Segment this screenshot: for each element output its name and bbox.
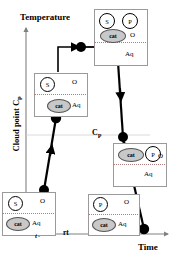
substrate-circle-icon: S (99, 13, 115, 29)
catalyst-ellipse-icon: cat (92, 218, 116, 232)
substrate-circle-icon: S (40, 77, 55, 92)
node-cloud-down (118, 132, 128, 142)
y-axis-top-label: Temperature (20, 12, 70, 22)
panel-mid-right-aqueous-label: Aq (144, 170, 153, 178)
panel-top-right-divider (94, 42, 146, 43)
x-axis-region-label: rt (63, 228, 69, 237)
panel-top-right-aqueous-label: Aq (125, 50, 134, 58)
substrate-circle-icon: S (8, 196, 23, 211)
node-top-left (76, 42, 86, 52)
y-axis-side-label-text: Cloud point C (11, 100, 21, 152)
panel-mid-left-organic-label: O (72, 78, 77, 86)
y-axis-side-label-subscript: P (17, 96, 23, 100)
catalyst-ellipse-icon: cat (100, 29, 126, 43)
panel-mid-right-organic-label: O (158, 152, 163, 160)
catalyst-ellipse-icon: cat (6, 217, 30, 231)
panel-mid-left-divider (34, 94, 86, 95)
panel-mid-left-aqueous-label: Aq (72, 101, 81, 109)
panel-bottom-mid-aqueous-label: Aq (118, 220, 127, 228)
panel-bottom-left-divider (2, 213, 54, 214)
panel-top-right-organic-label: O (130, 31, 135, 39)
cloud-point-label-subscript: P (98, 133, 102, 139)
panel-bottom-left-aqueous-label: Aq (32, 219, 41, 227)
figure-canvas: S O cat Aq S O cat Aq S P cat O Aq cat P… (0, 0, 180, 258)
panel-mid-right-divider (113, 164, 165, 165)
cloud-point-line-label: CP (92, 128, 101, 139)
trajectory-elbow (58, 47, 79, 72)
panel-bottom-mid-divider (88, 214, 138, 215)
trajectory-falling-arrowhead (120, 88, 121, 100)
node-end (139, 224, 149, 234)
x-axis-tick-label: t (35, 232, 37, 240)
product-circle-icon: P (122, 13, 138, 29)
x-axis-label: Time (138, 242, 158, 252)
catalyst-ellipse-icon: cat (118, 148, 144, 162)
panel-bottom-mid-organic-label: O (124, 198, 129, 206)
catalyst-ellipse-icon: cat (47, 99, 71, 113)
y-axis-side-label: Cloud point CP (11, 78, 23, 170)
panel-bottom-left-organic-label: O (40, 197, 45, 205)
product-circle-icon: P (93, 197, 108, 212)
